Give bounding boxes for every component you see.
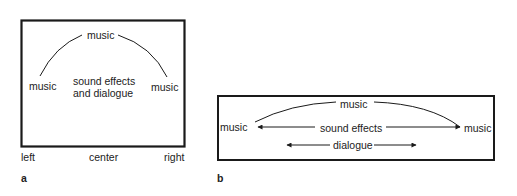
panel-b-dialogue: dialogue — [333, 139, 373, 151]
axis-label-center: center — [89, 151, 118, 163]
panel-a-center-line1: sound effects — [73, 75, 135, 87]
axis-label-right: right — [164, 151, 184, 163]
panel-b-letter: b — [217, 172, 223, 184]
panel-b-sound-effects: sound effects — [320, 122, 382, 134]
panel-a-letter: a — [21, 172, 27, 184]
panel-a-music-top: music — [87, 29, 114, 41]
axis-label-left: left — [21, 151, 35, 163]
panel-b-music-left: music — [220, 121, 247, 133]
panel-a-arc-right — [118, 35, 167, 77]
panel-b-music-top: music — [340, 98, 367, 110]
panel-a-music-right: music — [151, 81, 178, 93]
panel-b-arc-left — [255, 102, 336, 122]
panel-a-arc-left — [40, 35, 82, 76]
panel-a-center-line2: and dialogue — [73, 87, 133, 99]
panel-b-music-right: music — [464, 122, 491, 134]
panel-a-music-left: music — [29, 80, 56, 92]
panel-b-arc-right — [374, 102, 460, 127]
